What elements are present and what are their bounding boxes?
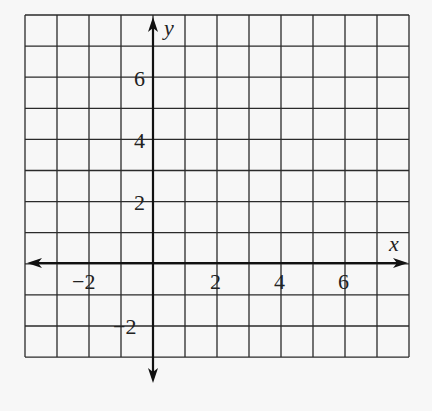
grid-lines <box>25 15 409 357</box>
y-axis <box>148 17 158 383</box>
y-tick-label: −2 <box>113 314 136 339</box>
x-tick-label: 6 <box>338 269 349 294</box>
x-tick-label: 4 <box>274 269 285 294</box>
coordinate-grid: y x −2 2 4 6 6 4 2 −2 <box>0 0 432 411</box>
x-tick-label: −2 <box>72 269 95 294</box>
y-tick-label: 2 <box>134 190 145 215</box>
y-axis-label: y <box>162 15 174 40</box>
y-tick-label: 6 <box>134 66 145 91</box>
y-tick-label: 4 <box>134 128 145 153</box>
x-tick-label: 2 <box>210 269 221 294</box>
x-axis-label: x <box>388 231 399 256</box>
